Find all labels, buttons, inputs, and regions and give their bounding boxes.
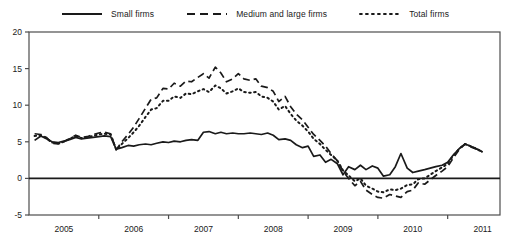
x-axis-ticks: 2005200620072008200920102011: [54, 215, 492, 234]
chart-canvas: 20151050-5 2005200620072008200920102011: [0, 26, 510, 247]
plot-area: 20151050-5 2005200620072008200920102011: [0, 26, 510, 247]
x-tick-label: 2005: [54, 224, 73, 234]
y-axis-ticks: 20151050-5: [13, 27, 29, 220]
y-tick-label: 15: [13, 64, 23, 74]
x-tick-label: 2010: [403, 224, 422, 234]
legend-swatch-dotted-icon: [359, 9, 401, 19]
x-tick-label: 2006: [124, 224, 143, 234]
chart-root: Small firms Medium and large firms Total…: [0, 0, 510, 247]
legend-label-total-firms: Total firms: [409, 9, 449, 19]
legend-label-small-firms: Small firms: [111, 9, 154, 19]
x-tick-label: 2009: [334, 224, 353, 234]
y-tick-label: 20: [13, 27, 23, 37]
legend-swatch-dashed-icon: [186, 9, 228, 19]
chart-legend: Small firms Medium and large firms Total…: [0, 0, 510, 28]
x-tick-label: 2011: [473, 224, 492, 234]
legend-item-total-firms: Total firms: [359, 9, 449, 19]
x-tick-label: 2007: [194, 224, 213, 234]
y-tick-label: -5: [14, 210, 22, 220]
legend-item-medium-and-large-firms: Medium and large firms: [186, 9, 327, 19]
y-tick-label: 0: [17, 173, 22, 183]
x-tick-label: 2008: [264, 224, 283, 234]
legend-label-medium-and-large-firms: Medium and large firms: [236, 9, 327, 19]
plot-frame: [29, 32, 500, 215]
y-tick-label: 10: [13, 100, 23, 110]
series-line-total-firms: [35, 85, 483, 192]
y-tick-label: 5: [17, 137, 22, 147]
series-line-small-firms: [35, 132, 483, 177]
legend-item-small-firms: Small firms: [61, 9, 154, 19]
legend-swatch-solid-icon: [61, 9, 103, 19]
